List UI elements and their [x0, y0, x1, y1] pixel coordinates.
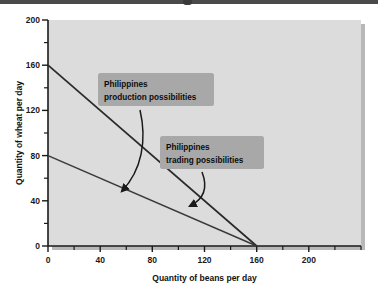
y-tick-label-200: 200 [26, 15, 40, 25]
trading-callout-line1: Philippines [166, 143, 210, 152]
x-tick-label-120: 120 [197, 255, 211, 265]
plot-area-background [48, 20, 361, 246]
x-tick-label-80: 80 [148, 255, 158, 265]
production-callout: Philippines production possibilities [98, 73, 214, 106]
figure-container: 0 40 80 120 160 200 0 40 80 120 160 200 … [0, 0, 378, 301]
x-axis-title: Quantity of beans per day [152, 273, 257, 283]
x-tick-label-40: 40 [95, 255, 105, 265]
y-tick-label-40: 40 [31, 196, 41, 206]
y-tick-label-120: 120 [26, 105, 40, 115]
x-tick-label-200: 200 [302, 255, 316, 265]
y-tick-label-160: 160 [26, 60, 40, 70]
trading-callout: Philippines trading possibilities [160, 136, 264, 169]
y-tick-label-0: 0 [35, 241, 40, 251]
production-callout-line1: Philippines [104, 80, 148, 89]
trading-callout-line2: trading possibilities [166, 156, 244, 165]
production-callout-line2: production possibilities [104, 93, 197, 102]
y-axis-title: Quantity of wheat per day [14, 81, 24, 185]
ppf-chart: 0 40 80 120 160 200 0 40 80 120 160 200 … [0, 0, 378, 301]
x-tick-label-160: 160 [250, 255, 264, 265]
x-tick-label-0: 0 [46, 255, 51, 265]
y-tick-label-80: 80 [31, 151, 41, 161]
